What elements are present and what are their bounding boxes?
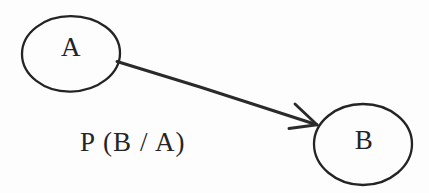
conditional-probability-diagram: A B P (B / A) [0, 0, 429, 193]
edge-probability-label: P (B / A) [80, 128, 186, 158]
node-a-label: A [0, 34, 142, 61]
edge-a-to-b-line[interactable] [117, 62, 316, 125]
node-b-label: B [293, 127, 429, 154]
diagram-canvas [0, 0, 429, 193]
